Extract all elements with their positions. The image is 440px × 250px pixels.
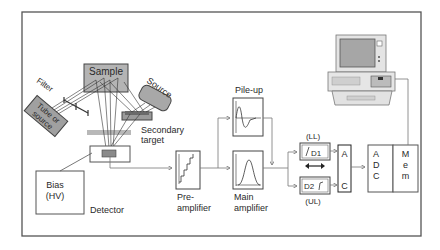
mem-m-label: M <box>402 149 410 159</box>
preamp-label-2: amplifier <box>177 203 211 213</box>
adc-d-label: D <box>373 160 380 170</box>
secondary-target <box>122 111 152 120</box>
sample-label: Sample <box>89 66 123 77</box>
ac-a-label: A <box>341 149 347 159</box>
computer-icon <box>328 35 395 105</box>
detector-label: Detector <box>90 205 124 215</box>
bias-hv-block: Bias (HV) <box>36 171 84 214</box>
memory-block: M e m <box>393 145 418 192</box>
secondary-label-2: target <box>141 135 165 145</box>
anticoincidence-block: A C <box>338 145 351 192</box>
adc-c-label: C <box>373 171 380 181</box>
d1-discriminator: D1 <box>300 143 330 160</box>
adc-a-label: A <box>373 149 379 159</box>
mem-e-label: e <box>403 160 408 170</box>
tube-or-source: Tube or source <box>24 95 67 136</box>
ac-c-label: C <box>341 181 348 191</box>
bias-label: Bias <box>46 180 64 190</box>
mainamp-label-2: amplifier <box>234 203 268 213</box>
ll-label: (LL) <box>306 132 321 141</box>
adc-block: A D C <box>368 145 393 192</box>
d2-discriminator: D2 <box>300 177 330 194</box>
d2-label: D2 <box>304 182 315 191</box>
d1-label: D1 <box>311 149 322 158</box>
preamp-label-1: Pre- <box>177 192 194 202</box>
pileup-block <box>233 98 263 136</box>
pileup-label: Pile-up <box>235 85 263 95</box>
filter-label: Filter <box>35 76 55 94</box>
hv-label: (HV) <box>46 191 65 201</box>
double-arrow-icon <box>305 163 325 169</box>
main-amplifier-block <box>233 151 263 189</box>
secondary-label-1: Secondary <box>141 125 185 135</box>
mem-m2-label: m <box>402 171 410 181</box>
ul-label: (UL) <box>305 197 321 206</box>
mainamp-label-1: Main <box>234 192 254 202</box>
edxrf-diagram: Sample Source Secondary target Tube or s… <box>0 0 440 250</box>
preamplifier-block <box>176 151 200 189</box>
